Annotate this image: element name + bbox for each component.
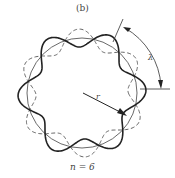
wavelength-extension-top	[113, 19, 123, 42]
vibration-mode-diagram	[0, 0, 175, 178]
wavelength-arc	[125, 28, 161, 86]
panel-label: (b)	[76, 4, 89, 13]
solid-mode-shape	[18, 35, 146, 151]
wavelength-label: λ	[148, 54, 153, 62]
radius-label: r	[96, 93, 100, 101]
base-circle	[27, 38, 137, 148]
wavelength-arrowhead-bottom	[158, 80, 163, 89]
radius-arrow	[83, 93, 124, 114]
mode-number-caption: n = 6	[70, 163, 95, 172]
